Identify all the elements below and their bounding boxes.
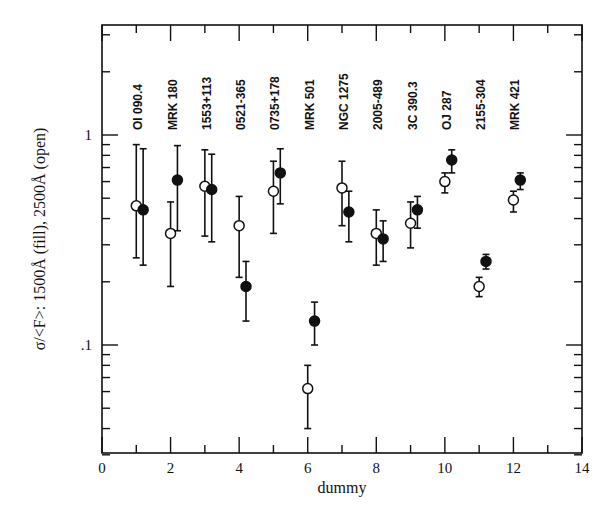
data-point	[481, 256, 491, 266]
data-point	[310, 316, 320, 326]
source-labels: OI 090.4MRK 1801553+1130521-3650735+178M…	[131, 73, 522, 130]
source-label: MRK 501	[303, 79, 317, 130]
data-point	[508, 195, 518, 205]
data-point	[241, 281, 251, 291]
y-axis-tick-labels: .11	[81, 127, 92, 353]
data-point	[412, 205, 422, 215]
y-tick-label: .1	[81, 337, 92, 353]
x-tick-label: 12	[506, 460, 521, 476]
source-label: OI 090.4	[131, 84, 145, 130]
data-point	[275, 168, 285, 178]
data-point	[207, 185, 217, 195]
source-label: 2005-489	[371, 79, 385, 130]
source-label: NGC 1275	[337, 73, 351, 130]
source-label: 2155-304	[474, 79, 488, 130]
data-point	[138, 205, 148, 215]
x-tick-label: 6	[304, 460, 312, 476]
x-tick-label: 10	[437, 460, 452, 476]
data-point	[303, 384, 313, 394]
source-label: 3C 390.3	[406, 81, 420, 130]
source-label: 0521-365	[234, 79, 248, 130]
x-tick-label: 8	[373, 460, 381, 476]
x-tick-label: 4	[235, 460, 243, 476]
y-tick-label: 1	[85, 127, 93, 143]
x-tick-label: 2	[167, 460, 175, 476]
chart: 02468101214 .11 OI 090.4MRK 1801553+1130…	[0, 0, 611, 511]
data-series	[131, 145, 525, 429]
data-point	[447, 155, 457, 165]
data-point	[406, 218, 416, 228]
x-axis-title: dummy	[318, 479, 367, 497]
data-point	[234, 221, 244, 231]
data-point	[172, 175, 182, 185]
data-point	[166, 228, 176, 238]
data-point	[268, 186, 278, 196]
source-label: MRK 421	[508, 79, 522, 130]
data-point	[344, 207, 354, 217]
series-1500A-filled	[138, 146, 525, 345]
source-label: MRK 180	[166, 79, 180, 130]
series-2500A-open	[131, 145, 518, 429]
x-axis-tick-labels: 02468101214	[98, 460, 590, 476]
data-point	[440, 177, 450, 187]
source-label: 0735+178	[268, 76, 282, 130]
data-point	[515, 175, 525, 185]
y-axis-title: σ/<F>: 1500Å (fill), 2500Å (open)	[31, 128, 49, 351]
source-label: OJ 287	[440, 90, 454, 130]
data-point	[378, 234, 388, 244]
x-tick-label: 14	[575, 460, 591, 476]
x-tick-label: 0	[98, 460, 106, 476]
source-label: 1553+113	[200, 77, 214, 130]
data-point	[474, 281, 484, 291]
